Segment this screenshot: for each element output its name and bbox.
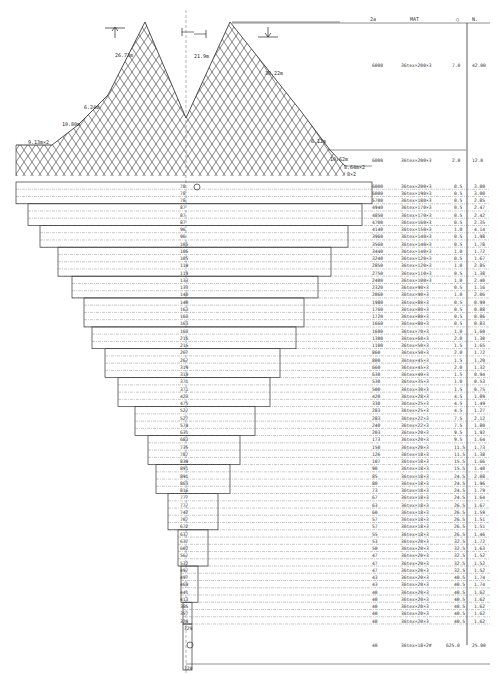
row-material: 36tex×80×3 — [401, 307, 429, 312]
row-n: 1.27 — [474, 408, 485, 413]
row-count: 602 — [180, 546, 189, 551]
dim-left-side-1: 6.24m — [84, 104, 99, 110]
row-2a: 1660 — [372, 321, 383, 326]
row-material: 36tex×20×3 — [401, 546, 429, 551]
svg-text:40: 40 — [372, 643, 378, 648]
row-count: 96 — [180, 227, 186, 232]
row-2a: 1300 — [372, 336, 383, 341]
row-n: 1.80 — [474, 423, 485, 428]
row-n: 1.67 — [474, 503, 485, 508]
row-mesh: 40.5 — [454, 619, 465, 624]
row-2a: 3560 — [372, 242, 383, 247]
table-row: 7776336tex×18×326.51.67 — [180, 503, 485, 508]
net-panel — [28, 204, 362, 226]
row-mesh: 40.5 — [454, 582, 465, 587]
row-mesh: 0.5 — [454, 213, 463, 218]
net-panel — [40, 225, 348, 247]
row-material: 36tex×60×3 — [401, 336, 429, 341]
net-panel — [92, 327, 296, 349]
row-mesh: 32.5 — [454, 546, 465, 551]
table-row: 68317336tex×20×39.51.64 — [180, 437, 485, 442]
row-mesh: 1.0 — [454, 278, 463, 283]
row-n: 1.62 — [474, 604, 485, 609]
row-material: 36tex×18×3 — [401, 524, 429, 529]
row-n: 2.06 — [474, 292, 485, 297]
row-count: 119 — [180, 263, 189, 268]
row-mesh: 2.0 — [454, 350, 463, 355]
row-count: 163 — [180, 321, 189, 326]
row-material: 36tex×20×3 — [401, 568, 429, 573]
row-mesh: 1.0 — [454, 249, 463, 254]
row-material: 36tex×25×3 — [401, 401, 429, 406]
row-n: 1.64 — [474, 437, 485, 442]
row-n: 1.32 — [474, 365, 485, 370]
row-material: 36tex×50×3 — [401, 343, 429, 348]
net-diagram: 2a MAT ○ N. 26.73m 21.9m 38.22m 6.24m 10… — [0, 0, 500, 675]
row-material: 36tex×40×3 — [401, 372, 429, 377]
row-mesh: 40.5 — [454, 611, 465, 616]
row-mesh: 24.5 — [454, 481, 465, 486]
row-material: 36tex×190×3 — [401, 191, 432, 196]
dim-center-gap: 21.9m — [194, 53, 209, 59]
row-n: 1.20 — [474, 358, 485, 363]
row-n: 1.52 — [474, 561, 485, 566]
row-2a: 530 — [372, 379, 381, 384]
row-mesh: 0.5 — [454, 220, 463, 225]
row-mesh: 2.0 — [454, 336, 463, 341]
row-2a: 43 — [372, 575, 378, 580]
dim-left-wing-top: 26.73m — [115, 52, 133, 58]
row-count: 105 — [180, 242, 189, 247]
row-count: 707 — [180, 517, 189, 522]
row-mesh: 32.5 — [454, 561, 465, 566]
row-n: 2.47 — [474, 205, 485, 210]
row-count: 96 — [180, 234, 186, 239]
row-material: 36tex×20×3 — [401, 582, 429, 587]
row-material: 36tex×20×3 — [401, 597, 429, 602]
table-row: 4414036tex×20×340.51.62 — [180, 590, 485, 595]
row-n: 1.38 — [474, 452, 485, 457]
table-row: 215110036tex×50×31.51.65 — [180, 343, 485, 348]
row-mesh: 0.5 — [454, 242, 463, 247]
row-count: 78 — [180, 198, 186, 203]
table-row: 119275036tex×110×30.51.38 — [180, 271, 485, 276]
row-2a: 3240 — [372, 256, 383, 261]
row-2a: 40 — [372, 604, 378, 609]
table-row: 216130036tex×60×32.01.30 — [180, 336, 485, 341]
row-n: 2.85 — [474, 263, 485, 268]
row-2a: 47 — [372, 568, 378, 573]
table-row: 6725736tex×18×326.51.51 — [180, 524, 485, 529]
row-count: 475 — [180, 401, 189, 406]
row-2a: 6000 — [372, 184, 383, 189]
row-count: 413 — [180, 597, 189, 602]
row-count: 87 — [180, 205, 186, 210]
row-mesh: 0.5 — [454, 198, 463, 203]
table-row: 3854036tex×20×340.51.62 — [180, 604, 485, 609]
row-mesh: 26.5 — [454, 503, 465, 508]
row-count: 579 — [180, 423, 189, 428]
row-n: 1.52 — [474, 553, 485, 558]
row-2a: 500 — [372, 387, 381, 392]
codend: 329 329 40 36tex×18×2# 625.0 25.00 — [184, 626, 490, 671]
row-count: 319 — [180, 365, 189, 370]
row-n: 1.67 — [474, 256, 485, 261]
row-2a: 1720 — [372, 314, 383, 319]
row-count: 267 — [180, 358, 189, 363]
row-material: 36tex×45×3 — [401, 365, 429, 370]
row-mesh: 7.5 — [454, 416, 463, 421]
row-mesh: 11.5 — [454, 445, 465, 450]
row-mesh: 26.5 — [454, 532, 465, 537]
row-material: 36tex×18×3 — [401, 481, 429, 486]
row-material: 36tex×140×3 — [401, 249, 432, 254]
row-n: 1.63 — [474, 546, 485, 551]
row-count: 357 — [180, 611, 189, 616]
row-mesh: 0.5 — [454, 256, 463, 261]
svg-text:6000: 6000 — [372, 63, 383, 68]
row-count: 385 — [180, 604, 189, 609]
row-material: 36tex×90×3 — [401, 285, 429, 290]
row-material: 36tex×170×3 — [401, 213, 432, 218]
row-n: 1.72 — [474, 539, 485, 544]
row-n: 1.72 — [474, 249, 485, 254]
table-row: 7426036tex×18×326.51.59 — [180, 510, 485, 515]
row-material: 36tex×18×3 — [401, 510, 429, 515]
row-n: 1.65 — [474, 343, 485, 348]
